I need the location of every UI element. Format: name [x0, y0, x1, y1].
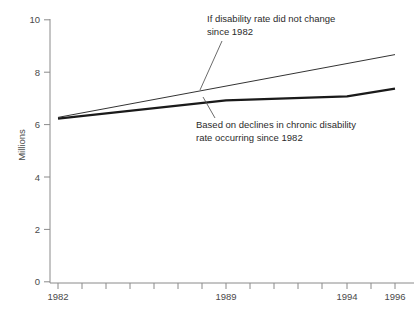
x-tick-label-1996: 1996 [384, 291, 405, 302]
x-axis-tick-labels: 1982 1989 1994 1996 [47, 291, 405, 302]
annotation-leader-lower [203, 97, 215, 118]
y-tick-label-8: 8 [35, 67, 40, 78]
x-tick-label-1989: 1989 [215, 291, 236, 302]
y-axis-title: Millions [16, 129, 27, 161]
x-tick-label-1994: 1994 [336, 291, 357, 302]
annotation-lower-line2: rate occurring since 1982 [196, 132, 303, 143]
annotation-upper-line2: since 1982 [207, 26, 253, 37]
y-tick-label-10: 10 [29, 14, 40, 25]
series-line-no-change [58, 55, 395, 118]
y-tick-label-2: 2 [35, 224, 40, 235]
annotation-leader-upper [200, 41, 222, 90]
annotation-lower: Based on declines in chronic disability … [196, 119, 356, 143]
y-tick-label-0: 0 [35, 276, 40, 287]
line-chart: 10 8 6 4 2 0 Millions [0, 0, 420, 316]
y-tick-label-4: 4 [35, 172, 40, 183]
x-tick-label-1982: 1982 [47, 291, 68, 302]
series-line-declines [58, 89, 395, 119]
chart-container: 10 8 6 4 2 0 Millions [0, 0, 420, 316]
annotation-upper-line1: If disability rate did not change [207, 13, 335, 24]
y-axis-tick-labels: 10 8 6 4 2 0 [29, 14, 40, 287]
y-tick-label-6: 6 [35, 119, 40, 130]
y-axis-ticks [44, 20, 50, 282]
annotation-upper: If disability rate did not change since … [207, 13, 335, 37]
annotation-lower-line1: Based on declines in chronic disability [196, 119, 356, 130]
x-axis-ticks [58, 283, 395, 289]
